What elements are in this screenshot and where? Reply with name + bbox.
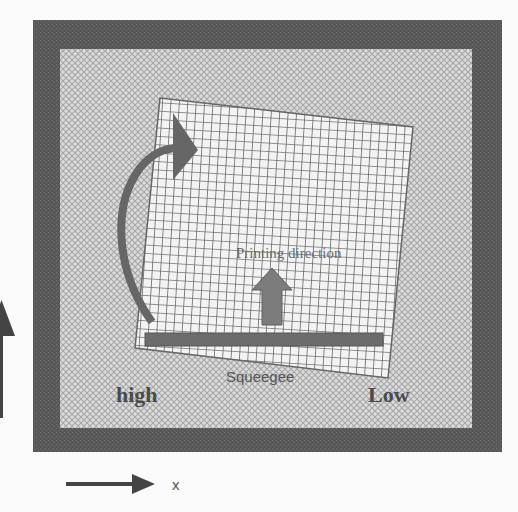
screen-printing-diagram: Printing direction Squeegee high Low x — [0, 0, 518, 512]
printing-direction-label: Printing direction — [236, 245, 342, 261]
squeegee-label: Squeegee — [226, 368, 294, 385]
low-label: Low — [368, 382, 410, 407]
high-label: high — [116, 382, 158, 407]
x-axis-label: x — [172, 476, 180, 493]
squeegee-bar — [145, 333, 383, 346]
x-axis-arrow-icon — [66, 474, 155, 494]
y-axis-arrow-icon — [0, 300, 15, 418]
